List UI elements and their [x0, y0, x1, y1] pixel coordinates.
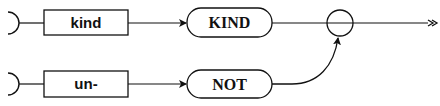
entry-bracket-bottom — [8, 73, 19, 95]
terminal-node-kind: KIND — [187, 8, 272, 37]
row-un: un- NOT — [8, 38, 338, 98]
merge-curve-arrow — [272, 38, 338, 84]
entry-bracket-top — [8, 12, 19, 34]
exit-double-arrow-icon — [428, 20, 437, 26]
terminal-label: NOT — [212, 76, 247, 93]
nonterminal-box-kind: kind — [44, 10, 128, 35]
syntax-diagram: kind KIND un- NOT — [0, 0, 440, 106]
nonterminal-box-un: un- — [44, 71, 128, 97]
terminal-label: KIND — [209, 14, 251, 31]
row-kind: kind KIND — [8, 8, 428, 37]
nonterminal-label: un- — [74, 75, 97, 92]
nonterminal-label: kind — [71, 14, 102, 31]
terminal-node-not: NOT — [187, 70, 272, 98]
